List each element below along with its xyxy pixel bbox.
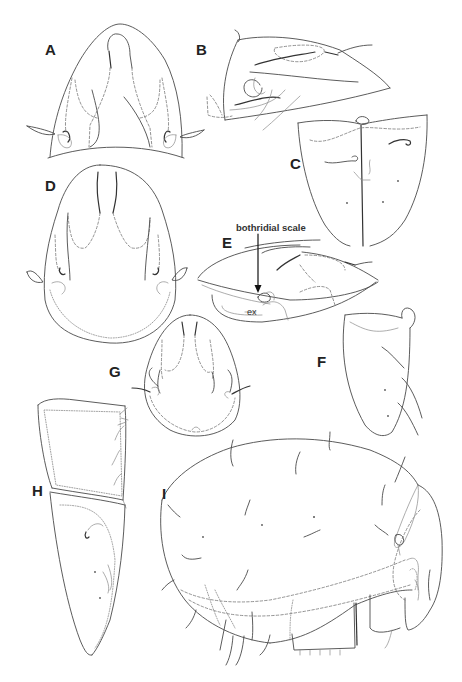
panel-g-drawing [132,315,250,436]
panel-label-g: G [109,364,121,379]
panel-label-a: A [45,42,56,57]
panel-f-drawing [343,308,422,436]
ex-label: ex [247,308,257,317]
drawings [0,0,462,682]
panel-label-h: H [32,483,43,498]
panel-i-drawing [161,432,443,665]
panel-label-f: F [317,354,326,369]
bothridial-scale-label: bothridial scale [236,223,306,233]
panel-b-drawing [207,30,390,130]
panel-label-d: D [45,178,56,193]
panel-h-drawing [38,399,128,655]
panel-label-c: C [290,156,301,171]
figure-plate: A B C D E F G H I bothridial scale ex [0,0,462,682]
panel-label-b: B [196,42,207,57]
panel-label-i: I [162,486,166,501]
panel-label-e: E [222,235,232,250]
panel-c-drawing [298,115,427,246]
